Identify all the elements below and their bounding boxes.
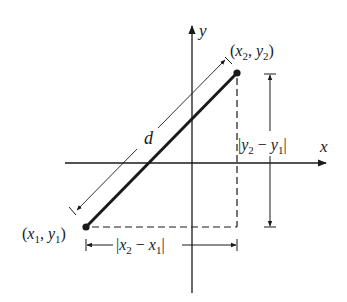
point-p1 <box>82 223 89 230</box>
distance-segment <box>86 73 237 227</box>
distance-diagram: x y d (x1, y1) (x2, y2) <box>0 0 347 302</box>
horizontal-difference-label: |x2 − x1| <box>116 236 165 256</box>
point-p2 <box>233 69 240 76</box>
y-axis-label: y <box>197 21 207 40</box>
distance-label: d <box>144 128 154 148</box>
vertical-difference-label: |y2 − y1| <box>238 136 287 156</box>
point-p2-label: (x2, y2) <box>230 42 274 62</box>
diagram-svg: x y d (x1, y1) (x2, y2) <box>0 0 347 302</box>
x-axis-label: x <box>319 137 328 156</box>
point-p1-label: (x1, y1) <box>22 225 66 245</box>
